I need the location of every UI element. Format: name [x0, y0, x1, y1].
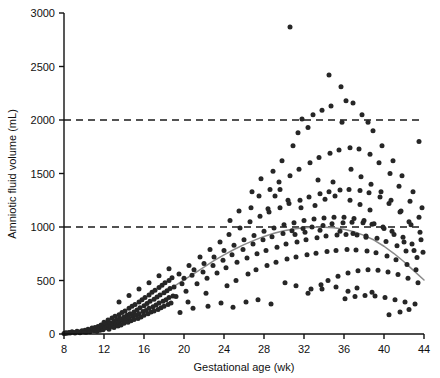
data-point [282, 222, 287, 227]
data-point [280, 158, 285, 163]
data-point [254, 267, 259, 272]
data-point [349, 167, 354, 172]
data-point [399, 208, 404, 213]
data-point [400, 173, 405, 178]
data-point [330, 221, 335, 226]
data-point [218, 239, 223, 244]
data-point [417, 215, 422, 220]
x-tick-label: 16 [138, 343, 150, 355]
data-point [309, 287, 314, 292]
data-point [368, 152, 373, 157]
y-tick-label: 1000 [31, 221, 55, 233]
data-point [345, 247, 350, 252]
y-tick-label: 0 [49, 328, 55, 340]
data-point [404, 249, 409, 254]
data-point [297, 167, 302, 172]
data-point [298, 198, 303, 203]
data-point [198, 254, 203, 259]
data-point [281, 231, 286, 236]
y-axis-title: Amniotic fluid volume (mL) [6, 109, 18, 239]
data-point [228, 218, 233, 223]
data-point [147, 280, 152, 285]
data-point [360, 112, 365, 117]
data-point [356, 268, 361, 273]
data-point [346, 271, 351, 276]
data-point [342, 215, 347, 220]
data-point [369, 182, 374, 187]
data-point [393, 297, 398, 302]
data-point [320, 287, 325, 292]
data-point [354, 248, 359, 253]
data-point [324, 234, 329, 239]
data-point [371, 128, 376, 133]
data-point [316, 177, 321, 182]
data-point [334, 284, 339, 289]
data-point [318, 228, 323, 233]
data-point [312, 216, 317, 221]
data-point [242, 237, 247, 242]
data-point [278, 205, 283, 210]
x-tick-label: 24 [218, 343, 230, 355]
data-point [344, 232, 349, 237]
data-point [169, 300, 174, 305]
data-point [327, 189, 332, 194]
data-point [325, 249, 330, 254]
data-point [212, 254, 217, 259]
data-point [407, 307, 412, 312]
data-point [117, 299, 122, 304]
data-point [177, 272, 182, 277]
data-point [237, 208, 242, 213]
data-point [278, 187, 283, 192]
data-point [202, 261, 207, 266]
data-point [222, 248, 227, 253]
data-point [219, 300, 224, 305]
data-point [249, 205, 254, 210]
data-point [372, 221, 377, 226]
data-point [347, 187, 352, 192]
data-point [225, 283, 230, 288]
data-point [215, 271, 220, 276]
data-point [348, 198, 353, 203]
data-point [336, 274, 341, 279]
data-point [367, 190, 372, 195]
data-point [344, 98, 349, 103]
data-point [357, 146, 362, 151]
data-point [306, 125, 311, 130]
data-point [408, 199, 413, 204]
data-point [246, 272, 251, 277]
data-point [338, 229, 343, 234]
data-point [295, 239, 300, 244]
data-point [211, 263, 216, 268]
x-tick-label: 8 [61, 343, 67, 355]
x-tick-label: 40 [378, 343, 390, 355]
data-point [293, 232, 298, 237]
data-point [379, 189, 384, 194]
x-tick-label: 28 [258, 343, 270, 355]
y-tick-label: 500 [37, 275, 55, 287]
data-point [366, 267, 371, 272]
data-point [418, 230, 423, 235]
data-point [174, 294, 179, 299]
amniotic-fluid-scatter-chart: 8121620242832364044050010001500200025003… [0, 0, 440, 378]
data-point [313, 203, 318, 208]
data-point [180, 281, 185, 286]
data-point [358, 188, 363, 193]
x-tick-label: 36 [338, 343, 350, 355]
data-point [416, 280, 421, 285]
data-point [414, 267, 419, 272]
data-point [323, 197, 328, 202]
y-tick-label: 1500 [31, 168, 55, 180]
data-point [328, 151, 333, 156]
data-point [269, 302, 274, 307]
axes-group [59, 13, 424, 339]
data-point [378, 195, 383, 200]
data-point [248, 219, 253, 224]
data-point [191, 306, 196, 311]
data-point [292, 220, 297, 225]
data-point [401, 235, 406, 240]
data-point [365, 249, 370, 254]
data-point [186, 299, 191, 304]
data-point [261, 237, 266, 242]
data-point [340, 120, 345, 125]
data-point [377, 160, 382, 165]
